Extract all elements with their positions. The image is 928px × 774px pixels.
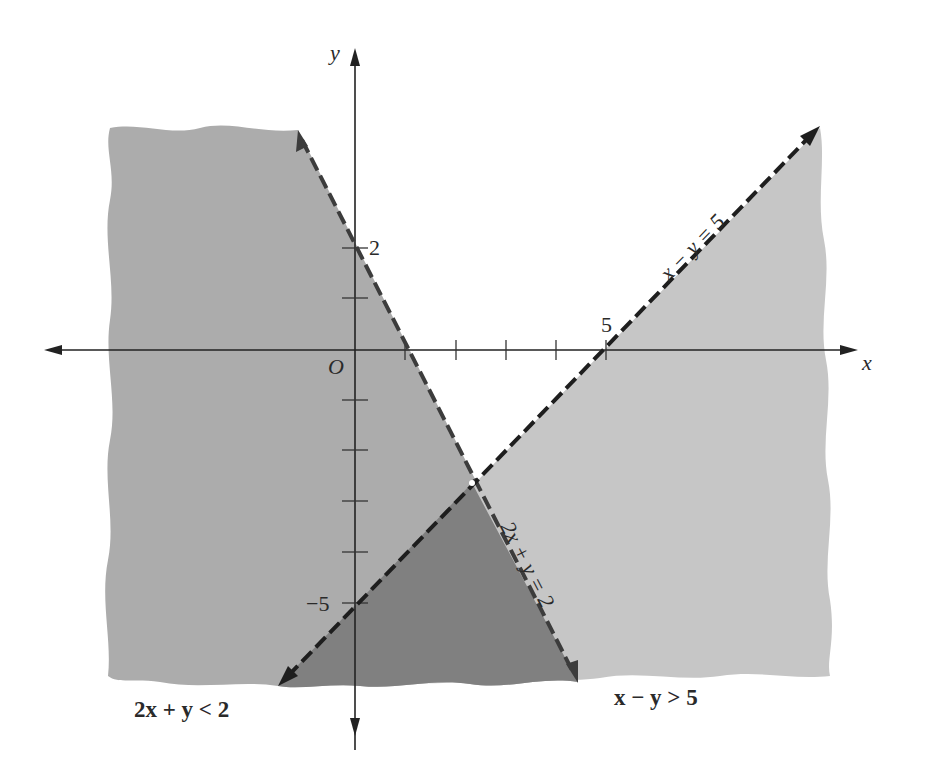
y-axis-down-arrow-icon (350, 718, 360, 736)
y-axis-label: y (330, 42, 340, 64)
x-tick-label-5: 5 (601, 314, 612, 336)
intersection-point (469, 480, 475, 486)
inequality-graph: y x O 2 −5 5 x − y = 5 2x + y = 2 2x + y… (0, 0, 928, 774)
x-axis-right-arrow-icon (840, 345, 858, 355)
y-axis-up-arrow-icon (350, 48, 360, 66)
origin-label: O (328, 356, 344, 378)
x-axis-label: x (862, 352, 872, 374)
graph-canvas (0, 0, 928, 774)
inequality-label-x-minus-y-gt-5: x − y > 5 (614, 686, 698, 709)
y-tick-label-2: 2 (369, 237, 380, 259)
inequality-label-2x-plus-y-lt-2: 2x + y < 2 (134, 698, 229, 721)
y-tick-label-neg5: −5 (306, 593, 329, 615)
x-axis-left-arrow-icon (44, 345, 62, 355)
